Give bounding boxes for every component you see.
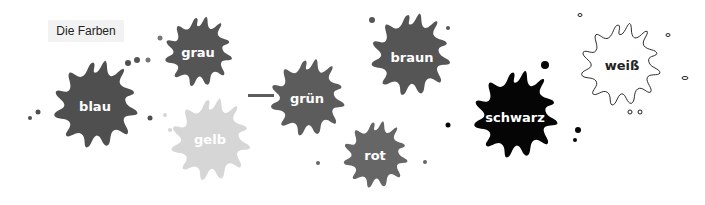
splat-schwarz: schwarz [446, 61, 582, 158]
splat-label-braun: braun [391, 50, 434, 65]
splat-label-schwarz: schwarz [485, 110, 544, 125]
splat-label-gelb: gelb [194, 132, 226, 147]
splat-braun: braun [369, 13, 450, 95]
splat-gruen: grün [248, 59, 345, 136]
splat-gelb: gelb [163, 98, 250, 180]
splat-label-rot: rot [364, 148, 386, 163]
splat-blau: blau [28, 60, 153, 148]
color-splats: blau grau gelb grün rot braun schwarz [0, 0, 705, 205]
splat-rot: rot [316, 121, 427, 187]
splat-label-gruen: grün [290, 91, 324, 106]
splat-label-grau: grau [181, 45, 215, 60]
splat-label-weiss: weiß [605, 58, 640, 73]
splat-grau: grau [134, 17, 232, 86]
splat-weiss: weiß [578, 14, 688, 115]
splat-label-blau: blau [79, 99, 111, 114]
